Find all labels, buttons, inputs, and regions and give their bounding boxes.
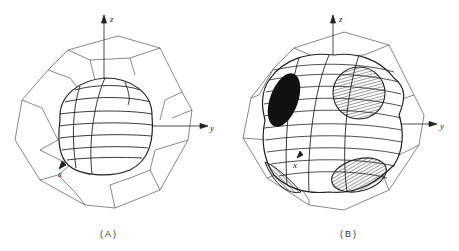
panel-b: z y x (B) [229, 0, 459, 251]
z-axis-label: z [109, 14, 114, 24]
y-axis-label: y [209, 123, 214, 133]
z-axis-label: z [338, 14, 343, 24]
y-arrow-icon [200, 124, 208, 129]
caption-a: (A) [100, 229, 118, 239]
panel-b-diagram: z y x [229, 0, 459, 251]
y-arrow-icon [429, 122, 437, 127]
panel-a: z y x (A) [0, 0, 230, 251]
caption-b: (B) [340, 229, 358, 239]
z-arrow-icon [331, 15, 336, 23]
panel-a-diagram: z y x [0, 0, 230, 251]
x-axis-label: x [57, 169, 62, 179]
z-arrow-icon [102, 15, 107, 23]
x-axis-label: x [292, 160, 297, 170]
neck-hatched-upper-right [333, 67, 385, 119]
y-axis-label: y [439, 121, 444, 131]
